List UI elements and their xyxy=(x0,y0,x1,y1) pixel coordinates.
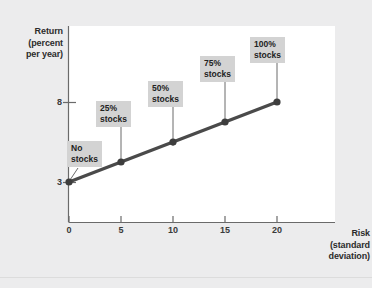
data-point-50-stocks xyxy=(169,138,176,145)
annotation-25-stocks: 25% stocks xyxy=(96,101,131,127)
annotation-75-stocks: 75% stocks xyxy=(200,56,235,82)
chart-figure: Return (percent per year) Risk (standard… xyxy=(0,0,372,288)
data-point-100-stocks xyxy=(273,98,280,105)
annotation-25-stocks-line-1: 25% xyxy=(100,103,127,114)
annotation-100-stocks-line-2: stocks xyxy=(254,50,281,61)
annotation-25-stocks-line-2: stocks xyxy=(100,114,127,125)
annotation-50-stocks: 50% stocks xyxy=(148,81,183,107)
annotation-50-stocks-line-1: 50% xyxy=(152,83,179,94)
annotation-100-stocks: 100% stocks xyxy=(250,37,285,63)
data-point-75-stocks xyxy=(221,118,228,125)
annotation-no-stocks: No stocks xyxy=(67,141,102,167)
annotation-no-stocks-line-1: No xyxy=(71,143,98,154)
data-point-no-stocks xyxy=(65,178,72,185)
bottom-divider xyxy=(0,277,372,278)
annotation-50-stocks-line-2: stocks xyxy=(152,94,179,105)
data-point-25-stocks xyxy=(117,158,124,165)
annotation-100-stocks-line-1: 100% xyxy=(254,39,281,50)
annotation-no-stocks-line-2: stocks xyxy=(71,154,98,165)
annotation-75-stocks-line-1: 75% xyxy=(204,58,231,69)
chart-vector-layer xyxy=(0,0,372,288)
annotation-75-stocks-line-2: stocks xyxy=(204,69,231,80)
